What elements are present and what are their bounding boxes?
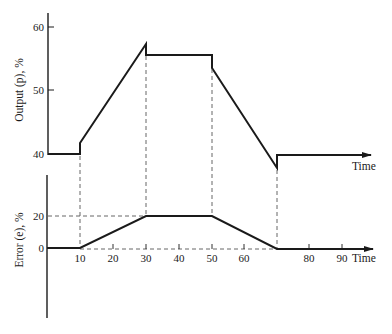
- error-curve: [47, 216, 300, 249]
- error-xtick-label-80: 80: [304, 252, 316, 264]
- error-ytick-label-20: 20: [33, 210, 45, 222]
- output-ytick-label-40: 40: [33, 148, 45, 160]
- error-xtick-label-60: 60: [239, 252, 251, 264]
- output-panel: 60 50 40 Output (p), % Time: [13, 13, 376, 172]
- error-xtick-label-10: 10: [75, 252, 87, 264]
- error-xtick-label-90: 90: [337, 252, 349, 264]
- error-xtick-label-20: 20: [108, 252, 120, 264]
- error-panel: 20 0 Error (e), % 10 20 30 40 50 60 80 9…: [13, 175, 376, 318]
- error-ytick-label-0: 0: [39, 242, 45, 254]
- output-ytick-label-50: 50: [33, 84, 45, 96]
- output-y-axis-title: Output (p), %: [13, 58, 26, 122]
- dashed-guides: [48, 56, 277, 249]
- chart-figure: 60 50 40 Output (p), % Time 20 0 Error (…: [0, 0, 392, 334]
- error-xtick-label-30: 30: [141, 252, 153, 264]
- error-xtick-label-50: 50: [207, 252, 219, 264]
- error-y-axis-title: Error (e), %: [13, 212, 26, 268]
- output-time-label: Time: [352, 160, 376, 172]
- output-ytick-label-60: 60: [33, 21, 45, 33]
- error-time-label: Time: [352, 252, 376, 264]
- output-curve: [48, 44, 300, 168]
- error-xtick-label-40: 40: [174, 252, 186, 264]
